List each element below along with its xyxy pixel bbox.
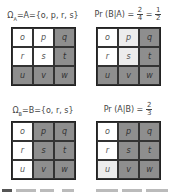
outcome-cell-v: v xyxy=(33,66,54,85)
set-definition: =B={o, r, s} xyxy=(22,106,74,115)
outcome-cell-s: s xyxy=(33,141,54,160)
outcome-cell-w: w xyxy=(139,160,160,179)
probability-expression: Pr (A|B) = xyxy=(104,105,144,114)
outcome-cell-o: o xyxy=(97,122,118,141)
outcome-cell-w: w xyxy=(54,160,75,179)
panel-pr-b-given-a: Pr (B|A) = 24 = 12 opqrstuvw xyxy=(85,0,171,98)
outcome-cell-t: t xyxy=(54,47,75,66)
denominator: 4 xyxy=(137,15,143,22)
outcome-cell-s: s xyxy=(118,47,139,66)
outcome-cell-q: q xyxy=(54,122,75,141)
denominator: 2 xyxy=(155,15,161,22)
outcome-grid: opqrstuvw xyxy=(11,27,76,86)
outcome-cell-v: v xyxy=(33,160,54,179)
outcome-cell-o: o xyxy=(97,28,118,47)
outcome-cell-t: t xyxy=(139,47,160,66)
outcome-cell-q: q xyxy=(54,28,75,47)
outcome-cell-q: q xyxy=(139,28,160,47)
denominator: 3 xyxy=(146,110,152,117)
fraction: 12 xyxy=(155,7,161,22)
outcome-cell-w: w xyxy=(139,66,160,85)
outcome-grid: opqrstuvw xyxy=(96,121,161,180)
outcome-cell-u: u xyxy=(12,160,33,179)
cropped-caption xyxy=(0,186,171,196)
outcome-grid: opqrstuvw xyxy=(11,121,76,180)
equals-sign: = xyxy=(146,10,153,19)
panel-title: Pr (B|A) = 24 = 12 xyxy=(85,7,171,22)
outcome-cell-t: t xyxy=(54,141,75,160)
outcome-cell-u: u xyxy=(97,66,118,85)
outcome-cell-w: w xyxy=(54,66,75,85)
outcome-cell-p: p xyxy=(118,28,139,47)
outcome-cell-o: o xyxy=(12,28,33,47)
outcome-cell-s: s xyxy=(118,141,139,160)
panel-title: ΩA=A={o, p, r, s} xyxy=(0,11,86,24)
outcome-cell-p: p xyxy=(118,122,139,141)
outcome-cell-o: o xyxy=(12,122,33,141)
panel-pr-a-given-b: Pr (A|B) = 23 opqrstuvw xyxy=(85,98,171,196)
outcome-grid: opqrstuvw xyxy=(96,27,161,86)
panel-title: ΩB=B={o, r, s} xyxy=(0,106,86,119)
outcome-cell-r: r xyxy=(97,47,118,66)
outcome-cell-v: v xyxy=(118,160,139,179)
set-definition: =A={o, p, r, s} xyxy=(17,11,79,20)
outcome-cell-t: t xyxy=(139,141,160,160)
outcome-cell-p: p xyxy=(33,28,54,47)
outcome-cell-u: u xyxy=(12,66,33,85)
outcome-cell-s: s xyxy=(33,47,54,66)
probability-expression: Pr (B|A) = xyxy=(95,10,135,19)
outcome-cell-p: p xyxy=(33,122,54,141)
outcome-cell-v: v xyxy=(118,66,139,85)
fraction: 24 xyxy=(137,7,143,22)
panel-omega-a: ΩA=A={o, p, r, s} opqrstuvw xyxy=(0,0,86,98)
outcome-cell-r: r xyxy=(12,141,33,160)
panel-omega-b: ΩB=B={o, r, s} opqrstuvw xyxy=(0,98,86,196)
outcome-cell-q: q xyxy=(139,122,160,141)
panel-title: Pr (A|B) = 23 xyxy=(85,102,171,117)
outcome-cell-r: r xyxy=(97,141,118,160)
outcome-cell-u: u xyxy=(97,160,118,179)
outcome-cell-r: r xyxy=(12,47,33,66)
fraction: 23 xyxy=(146,102,152,117)
